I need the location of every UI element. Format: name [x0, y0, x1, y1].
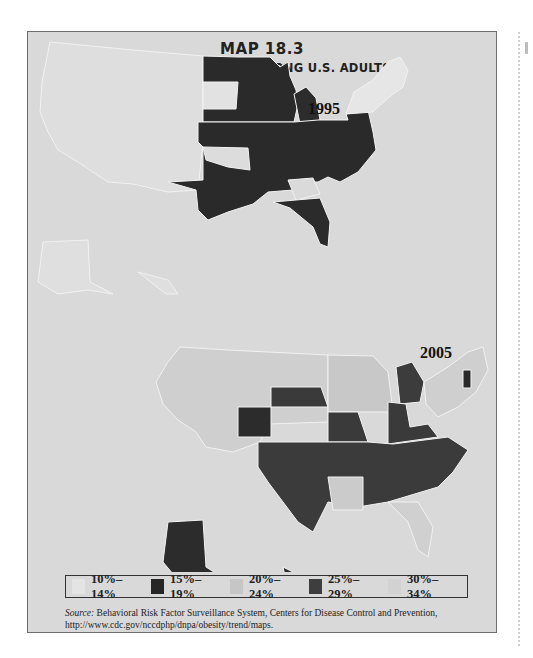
page-margin-rule: [518, 32, 520, 646]
region-missouri-2005: [328, 412, 368, 442]
page-margin-mark: [525, 42, 528, 54]
legend-swatch: [230, 579, 243, 594]
legend-label: 25%–29%: [328, 572, 380, 602]
region-alaska-2005: [163, 520, 233, 572]
legend-item-20-24: 20%–24%: [230, 572, 301, 602]
legend-item-10-14: 10%–14%: [72, 572, 143, 602]
source-note: Source: Behavioral Risk Factor Surveilla…: [65, 607, 437, 631]
legend-item-30-34: 30%–34%: [388, 572, 459, 602]
legend-label: 20%–24%: [249, 572, 301, 602]
legend-label: 30%–34%: [407, 572, 459, 602]
legend-label: 15%–19%: [170, 572, 222, 602]
year-label-2005: 2005: [420, 344, 452, 362]
region-colorado-2005: [238, 407, 271, 437]
source-prefix: Source:: [65, 608, 94, 618]
legend-swatch: [388, 579, 401, 594]
map-2005: [28, 32, 498, 572]
source-url: http://www.cdc.gov/nccdphp/dnpa/obesity/…: [65, 620, 273, 630]
legend-label: 10%–14%: [91, 572, 143, 602]
legend-swatch: [72, 579, 85, 594]
region-michigan-2005: [396, 362, 424, 404]
region-midwest-2005: [328, 355, 393, 412]
region-florida-2005: [388, 502, 433, 557]
region-vermont-2005: [463, 370, 471, 388]
region-deepsouth-light-2005: [328, 477, 363, 510]
legend-item-25-29: 25%–29%: [309, 572, 380, 602]
source-text: Behavioral Risk Factor Surveillance Syst…: [94, 608, 437, 618]
map-figure: MAP 18.3 OBESITY TRENDS AMONG U.S. ADULT…: [27, 31, 497, 633]
legend-swatch: [151, 579, 164, 594]
legend: 10%–14% 15%–19% 20%–24% 25%–29% 30%–34%: [65, 575, 468, 598]
legend-swatch: [309, 579, 322, 594]
region-nebraska-2005: [271, 387, 328, 407]
legend-item-15-19: 15%–19%: [151, 572, 222, 602]
